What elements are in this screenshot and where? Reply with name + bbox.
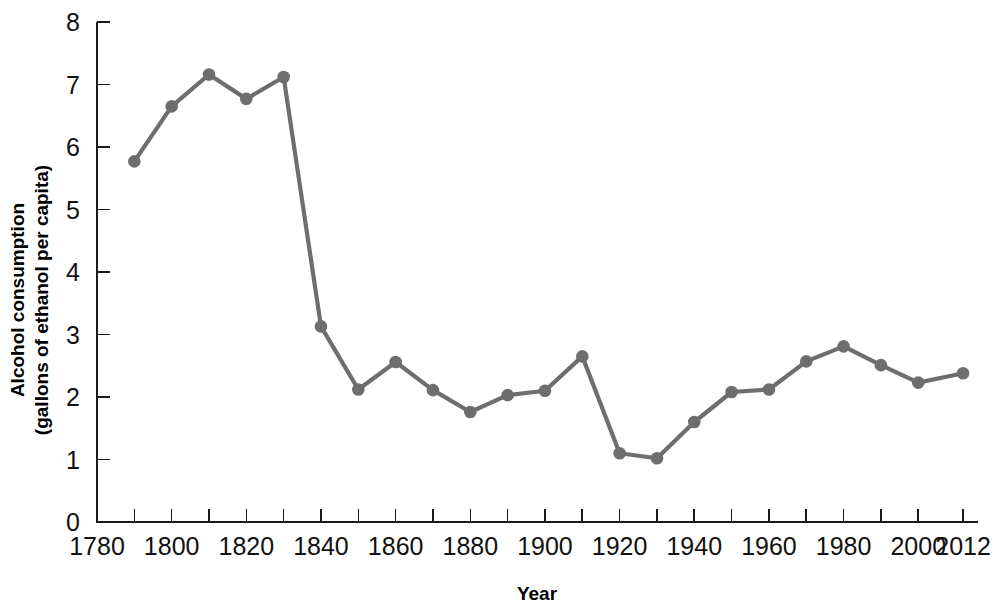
x-tick-label: 1960	[741, 532, 797, 560]
axis-lines	[97, 22, 978, 522]
data-markers	[128, 68, 969, 464]
x-tick-label: 1860	[368, 532, 424, 560]
y-tick-label: 4	[66, 258, 80, 286]
data-point-marker	[389, 356, 402, 369]
data-point-marker	[837, 340, 850, 353]
data-point-marker	[277, 71, 290, 84]
data-series	[134, 75, 963, 459]
data-point-marker	[240, 93, 253, 106]
line-chart: Alcohol consumption (gallons of ethanol …	[0, 0, 1005, 608]
data-point-marker	[800, 355, 813, 368]
y-axis-title: Alcohol consumption (gallons of ethanol …	[7, 165, 52, 435]
data-point-marker	[352, 383, 365, 396]
x-tick-label: 1920	[592, 532, 648, 560]
y-tick-label: 0	[66, 508, 80, 536]
y-axis-title-line1: Alcohol consumption	[7, 203, 28, 397]
x-tick-label: 1980	[816, 532, 872, 560]
data-point-marker	[957, 367, 970, 380]
x-tick-label: 1780	[69, 532, 125, 560]
data-point-marker	[464, 406, 477, 419]
data-point-marker	[315, 320, 328, 333]
data-point-marker	[875, 359, 888, 372]
x-tick-label: 1820	[219, 532, 275, 560]
series-line	[134, 75, 963, 459]
data-point-marker	[427, 384, 440, 397]
y-tick-label: 2	[66, 383, 80, 411]
axes	[97, 22, 978, 522]
y-tick-label: 6	[66, 133, 80, 161]
data-point-marker	[688, 416, 701, 429]
y-tick-label: 1	[66, 446, 80, 474]
chart-page: Alcohol consumption (gallons of ethanol …	[0, 0, 1005, 608]
data-point-marker	[613, 447, 626, 460]
y-tick-label: 7	[66, 71, 80, 99]
y-axis-tick-labels: 012345678	[66, 8, 80, 536]
data-point-marker	[501, 389, 514, 402]
x-axis-tick-labels: 1780180018201840186018801900192019401960…	[69, 532, 991, 560]
x-tick-label: 2012	[935, 532, 991, 560]
data-point-marker	[128, 155, 141, 168]
x-tick-label: 1900	[517, 532, 573, 560]
y-tick-label: 8	[66, 8, 80, 36]
data-point-marker	[539, 384, 552, 397]
data-point-marker	[763, 383, 776, 396]
x-tick-label: 1840	[293, 532, 349, 560]
x-tick-label: 1880	[442, 532, 498, 560]
data-point-marker	[912, 376, 925, 389]
x-tick-label: 1940	[666, 532, 722, 560]
data-point-marker	[203, 68, 216, 81]
y-tick-label: 5	[66, 196, 80, 224]
data-point-marker	[651, 452, 664, 465]
y-tick-label: 3	[66, 321, 80, 349]
data-point-marker	[725, 386, 738, 399]
axis-ticks	[97, 22, 963, 522]
x-tick-label: 1800	[144, 532, 200, 560]
data-point-marker	[165, 100, 178, 113]
x-axis-title: Year	[517, 583, 558, 604]
y-axis-title-line2: (gallons of ethanol per capita)	[31, 165, 52, 435]
data-point-marker	[576, 350, 589, 363]
